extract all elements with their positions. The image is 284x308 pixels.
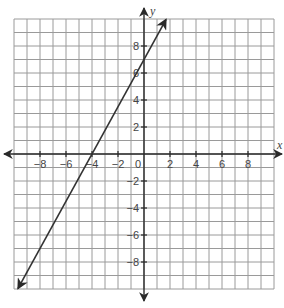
- x-tick-label: 0: [135, 158, 141, 170]
- x-tick-label: −8: [34, 158, 47, 170]
- x-tick-label: −6: [60, 158, 73, 170]
- y-tick-label: −8: [126, 256, 139, 268]
- x-axis-label: x: [276, 138, 283, 152]
- y-tick-label: −2: [126, 175, 139, 187]
- x-tick-label: 8: [245, 158, 251, 170]
- y-tick-label: 2: [133, 121, 139, 133]
- x-tick-label: 6: [219, 158, 225, 170]
- x-tick-label: 4: [193, 158, 199, 170]
- x-tick-label: −2: [112, 158, 125, 170]
- x-tick-label: 2: [167, 158, 173, 170]
- y-axis-label: y: [149, 4, 156, 18]
- y-tick-label: −6: [126, 229, 139, 241]
- coordinate-plane: −8−6−4−202468−8−6−4−22468 x y: [0, 0, 284, 308]
- y-tick-label: 4: [133, 94, 139, 106]
- y-tick-label: 8: [133, 40, 139, 52]
- axes: [4, 8, 282, 301]
- x-tick-label: −4: [86, 158, 99, 170]
- y-tick-label: −4: [126, 202, 139, 214]
